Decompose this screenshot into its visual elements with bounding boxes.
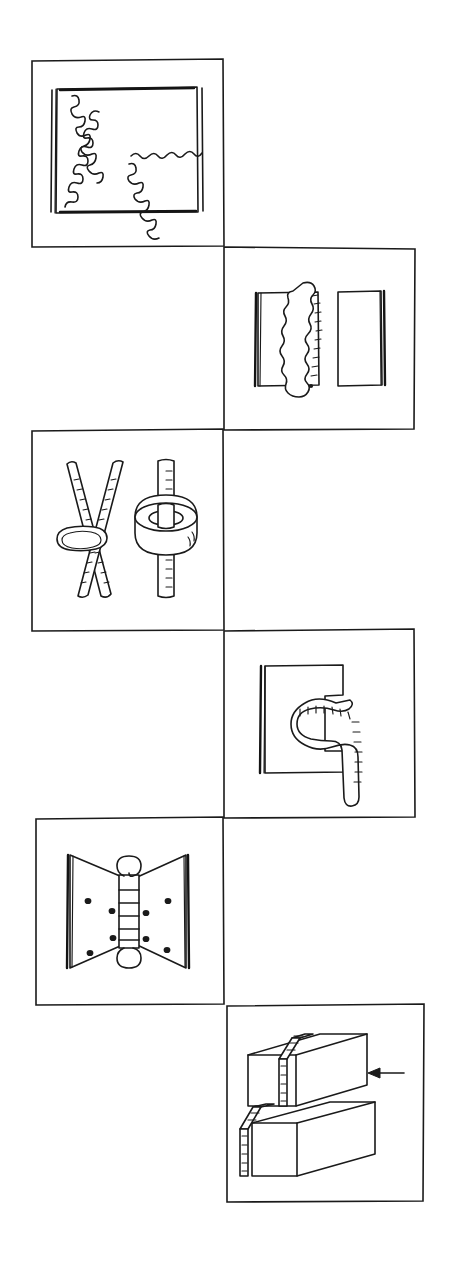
- panel-6: [227, 1004, 424, 1202]
- panel-1: [32, 59, 224, 247]
- plate-edge-bar: [260, 666, 261, 773]
- hinge-barrel: [119, 875, 139, 948]
- panel-2: [224, 247, 415, 430]
- screw-hole: [143, 910, 150, 916]
- panel-2-frame: [224, 247, 415, 430]
- plate-bottom-edge: [60, 211, 196, 212]
- sheet-canvas: [0, 0, 456, 1265]
- panel-5: [36, 817, 224, 1005]
- plate-right-edge-line: [202, 88, 203, 211]
- panel-4-frame: [224, 629, 415, 818]
- plate-left-edge-line: [51, 90, 52, 212]
- right-plate-edge-bar: [384, 291, 385, 385]
- panel-4: [224, 629, 415, 818]
- screw-hole: [87, 950, 94, 956]
- hinge-right-edge-bar: [188, 855, 189, 968]
- screw-hole: [109, 908, 116, 914]
- screw-hole: [165, 898, 172, 904]
- weld-ring-at-crossing: [57, 526, 107, 551]
- screw-hole: [164, 947, 171, 953]
- screw-hole: [143, 936, 150, 942]
- left-plate-edge-bar: [255, 293, 256, 386]
- panel-3: [32, 429, 224, 631]
- illustration-sheet: [0, 0, 456, 1265]
- screw-hole: [110, 935, 117, 941]
- screw-hole: [85, 898, 92, 904]
- bar-through-bore: [158, 504, 174, 529]
- hinge-left-edge-bar: [67, 855, 68, 968]
